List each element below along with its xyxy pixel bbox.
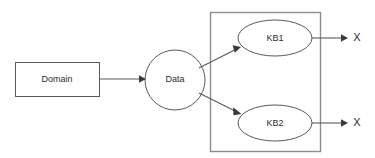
edge-domain-to-data bbox=[99, 75, 146, 83]
edge-kb1-to-output bbox=[312, 34, 348, 42]
terminal-output-bottom-label: X bbox=[353, 116, 361, 128]
edge-data-to-kb1-line bbox=[199, 50, 236, 69]
edge-data-to-kb2-line bbox=[199, 93, 236, 112]
flow-diagram: Domain Data KB1 KB2 bbox=[0, 0, 375, 158]
edge-kb1-to-output-arrowhead bbox=[341, 34, 348, 42]
terminal-output-top-label: X bbox=[353, 31, 361, 43]
edge-data-to-kb2-arrowhead bbox=[233, 107, 241, 115]
edge-data-to-kb1 bbox=[199, 45, 241, 68]
edge-data-to-kb2 bbox=[199, 93, 242, 115]
edge-kb2-to-output bbox=[312, 119, 348, 127]
node-kb2-label: KB2 bbox=[266, 118, 283, 128]
node-kb1-label: KB1 bbox=[266, 33, 283, 43]
diagram-canvas-root: Domain Data KB1 KB2 bbox=[0, 0, 375, 158]
edge-data-to-kb1-arrowhead bbox=[233, 45, 241, 53]
node-data-label: Data bbox=[165, 74, 184, 84]
edge-kb2-to-output-arrowhead bbox=[341, 119, 348, 127]
node-domain-label: Domain bbox=[41, 74, 72, 84]
